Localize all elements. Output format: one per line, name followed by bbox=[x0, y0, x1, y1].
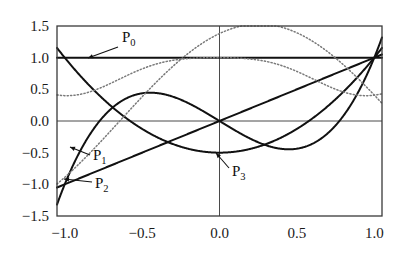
y-tick-label: −0.5 bbox=[22, 145, 49, 161]
x-tick-label: −0.5 bbox=[129, 225, 156, 241]
y-tick-label: 0.0 bbox=[30, 113, 49, 129]
figure-root: −1.0−0.50.00.51.0−1.5−1.0−0.50.00.51.01.… bbox=[0, 0, 402, 264]
y-tick-label: 1.5 bbox=[30, 18, 49, 34]
x-tick-label: 1.0 bbox=[365, 225, 384, 241]
x-tick-label: −1.0 bbox=[51, 225, 78, 241]
y-tick-label: −1.0 bbox=[22, 176, 49, 192]
y-tick-label: −1.5 bbox=[22, 208, 49, 224]
legendre-polynomial-chart: −1.0−0.50.00.51.0−1.5−1.0−0.50.00.51.01.… bbox=[0, 0, 402, 264]
x-tick-label: 0.5 bbox=[288, 225, 307, 241]
y-tick-label: 1.0 bbox=[30, 50, 49, 66]
x-tick-label: 0.0 bbox=[210, 225, 229, 241]
y-tick-label: 0.5 bbox=[30, 81, 49, 97]
